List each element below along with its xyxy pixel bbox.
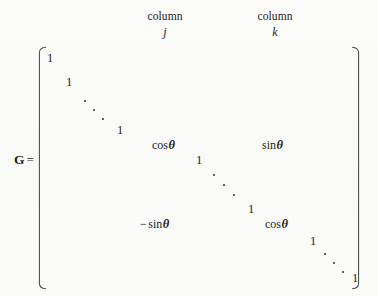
matrix-bracket-left — [36, 46, 48, 290]
matrix-entry-one-5: 1 — [248, 203, 254, 216]
cos-label: cos — [152, 138, 168, 152]
matrix-entry-one-3: 1 — [117, 124, 123, 137]
ddots-dot — [324, 253, 326, 255]
ddots-dot — [93, 109, 95, 111]
theta-symbol: θ — [281, 217, 288, 231]
matrix-symbol-g: G — [14, 152, 25, 167]
equals-sign: = — [25, 153, 34, 167]
theta-symbol: θ — [276, 138, 283, 152]
ddots-dot — [233, 194, 235, 196]
ddots-dot — [342, 271, 344, 273]
sin-label: sin — [148, 217, 162, 231]
matrix-entry-sin-theta-jk: sinθ — [262, 139, 283, 152]
theta-symbol: θ — [162, 217, 169, 231]
column-j-word: column — [133, 9, 197, 24]
matrix-entry-cos-theta-kk: cosθ — [265, 218, 288, 231]
ddots-dot — [102, 118, 104, 120]
ddots-dot — [84, 100, 86, 102]
column-j-index: j — [133, 24, 197, 40]
matrix-entry-one-7: 1 — [352, 272, 358, 285]
matrix-entry-one-6: 1 — [310, 235, 316, 248]
matrix-entry-neg-sin-theta-kj: −sinθ — [140, 218, 169, 231]
matrix-bracket-right — [350, 46, 362, 290]
matrix-entry-one-1: 1 — [47, 52, 53, 65]
column-j-annotation: column j — [133, 9, 197, 40]
givens-matrix-figure: column j column k G= 1 1 1 cosθ sinθ 1 — [0, 0, 378, 296]
theta-symbol: θ — [168, 138, 175, 152]
ddots-upper-left — [83, 99, 109, 123]
column-k-index: k — [243, 24, 307, 40]
column-k-word: column — [243, 9, 307, 24]
equation-left-hand-side: G= — [14, 152, 34, 168]
ddots-middle — [212, 173, 242, 199]
sin-label: sin — [262, 138, 276, 152]
matrix-entry-one-4: 1 — [196, 154, 202, 167]
ddots-dot — [213, 174, 215, 176]
matrix-entry-one-2: 1 — [66, 76, 72, 89]
ddots-dot — [223, 184, 225, 186]
cos-label: cos — [265, 217, 281, 231]
ddots-dot — [333, 262, 335, 264]
ddots-lower-right — [323, 252, 349, 276]
matrix-entry-cos-theta-jj: cosθ — [152, 139, 175, 152]
column-k-annotation: column k — [243, 9, 307, 40]
